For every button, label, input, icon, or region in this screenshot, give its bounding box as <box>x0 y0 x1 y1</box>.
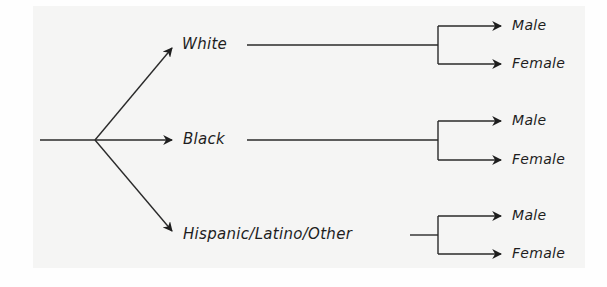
leaf-label-black-female: Female <box>512 152 565 166</box>
leaf-label-hispanic-female: Female <box>512 246 565 260</box>
branch-arrow-white <box>95 48 172 140</box>
tree-connectors <box>0 0 607 287</box>
category-label-white: White <box>182 37 227 52</box>
leaf-label-white-male: Male <box>512 18 546 32</box>
category-label-hispanic-latino-other: Hispanic/Latino/Other <box>183 227 352 242</box>
leaf-label-black-male: Male <box>512 113 546 127</box>
branch-arrow-hispanic <box>95 140 172 231</box>
leaf-label-white-female: Female <box>512 56 565 70</box>
diagram-canvas: White Black Hispanic/Latino/Other Male F… <box>0 0 607 287</box>
category-label-black: Black <box>183 132 225 147</box>
leaf-label-hispanic-male: Male <box>512 208 546 222</box>
